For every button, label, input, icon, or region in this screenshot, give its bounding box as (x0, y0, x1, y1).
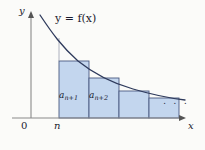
bar-label-1: an+1 (59, 91, 78, 101)
function-label: y = f(x) (55, 13, 96, 24)
bar-group (59, 61, 179, 118)
bar-rect-3 (119, 91, 149, 118)
y-axis-label: y (19, 6, 25, 16)
figure-canvas (0, 0, 205, 150)
bar-label-1-subscript: n+1 (64, 94, 78, 102)
x-tick-label-n: n (54, 121, 60, 131)
x-axis-label: x (188, 121, 194, 131)
riemann-sum-figure: y x 0 n y = f(x) an+1 an+2 . . . (0, 0, 205, 150)
bar-label-2: an+2 (89, 91, 108, 101)
bar-label-2-subscript: n+2 (94, 94, 108, 102)
ellipsis-label: . . . (163, 96, 189, 106)
function-label-text: y = f(x) (55, 12, 96, 25)
origin-label: 0 (21, 121, 27, 131)
y-axis (28, 11, 34, 118)
